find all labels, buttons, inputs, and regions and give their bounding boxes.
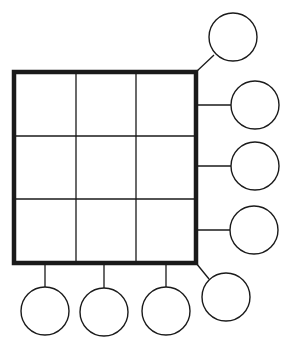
circle-right-2[interactable]	[231, 142, 279, 190]
grid-cell-r1-c2[interactable]	[76, 72, 136, 136]
grid-cell-r2-c1[interactable]	[14, 136, 76, 199]
grid-cell-r3-c2[interactable]	[76, 199, 136, 263]
grid-cell-r3-c1[interactable]	[14, 199, 76, 263]
circle-top-right-diagonal[interactable]	[209, 13, 257, 61]
circle-bottom-3[interactable]	[142, 287, 190, 335]
diagram-canvas	[0, 0, 292, 340]
connector-top-right-diagonal	[196, 55, 214, 72]
connector-bottom-right-diagonal	[196, 263, 209, 279]
circle-right-3[interactable]	[230, 206, 278, 254]
three-by-three-grid	[14, 72, 196, 263]
circle-right-1[interactable]	[231, 81, 279, 129]
grid-cell-r1-c1[interactable]	[14, 72, 76, 136]
grid-cell-r1-c3[interactable]	[136, 72, 196, 136]
grid-cell-r2-c3[interactable]	[136, 136, 196, 199]
circle-bottom-2[interactable]	[80, 288, 128, 336]
circle-bottom-1[interactable]	[21, 287, 69, 335]
circle-bottom-right-diagonal[interactable]	[202, 273, 250, 321]
grid-cell-r2-c2[interactable]	[76, 136, 136, 199]
grid-cell-r3-c3[interactable]	[136, 199, 196, 263]
